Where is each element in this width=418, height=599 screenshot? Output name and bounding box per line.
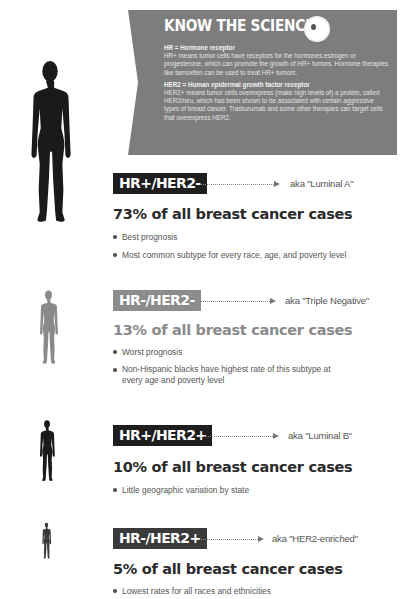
subtype-badge: HR+/HER2+ [113,425,212,446]
definition-text: HER2+ means tumor cells overexpress (mak… [164,89,390,122]
figure-luminal-b [36,419,58,497]
bullet-item: Most common subtype for every race, age,… [113,249,403,261]
subtype-stat: 10% of all breast cancer cases [113,459,352,475]
arrow-icon [203,436,273,438]
arrow-icon [200,184,274,186]
cell-nucleus-icon [311,24,316,30]
bullet-item: Best prognosis [113,231,403,243]
banner-title: KNOW THE SCIENCE [164,16,314,35]
subtype-aka: aka "Triple Negative" [285,295,369,306]
subtype-bullets: Little geographic variation by state [113,484,403,502]
know-the-science-banner: KNOW THE SCIENCE HR = Hormone receptor H… [128,10,397,155]
subtype-stat: 73% of all breast cancer cases [113,206,352,222]
subtype-badge: HR-/HER2- [113,290,201,311]
subtype-badge: HR+/HER2- [113,173,207,194]
cell-icon [306,18,328,40]
subtype-stat: 13% of all breast cancer cases [113,322,352,338]
subtype-bullets: Lowest rates for all races and ethniciti… [113,585,403,599]
subtype-badge: HR-/HER2+ [113,528,207,549]
bullet-item: Little geographic variation by state [113,484,403,496]
figure-triple-negative [35,289,62,383]
figure-her2-enriched [40,522,53,568]
definition-term: HR = Hormone receptor [164,44,390,52]
figure-luminal-a [24,58,76,264]
definition-term: HER2 = Human epidermal growth factor rec… [164,81,390,89]
subtype-aka: aka "Luminal A" [290,178,353,189]
arrow-icon [201,539,258,541]
subtype-bullets: Worst prognosis Non-Hispanic blacks have… [113,346,343,392]
bullet-item: Worst prognosis [113,346,343,358]
subtype-stat: 5% of all breast cancer cases [113,561,343,577]
definition-her2: HER2 = Human epidermal growth factor rec… [164,81,390,122]
subtype-bullets: Best prognosis Most common subtype for e… [113,231,403,267]
bullet-item: Lowest rates for all races and ethniciti… [113,585,403,597]
subtype-aka: aka "HER2-enriched" [272,533,358,544]
subtype-aka: aka "Luminal B" [288,430,352,441]
definition-text: HR+ means tumor cells have receptors for… [164,52,390,77]
definition-hr: HR = Hormone receptor HR+ means tumor ce… [164,44,390,77]
bullet-item: Non-Hispanic blacks have highest rate of… [113,364,343,386]
arrow-icon [200,301,270,303]
definitions: HR = Hormone receptor HR+ means tumor ce… [164,44,390,126]
